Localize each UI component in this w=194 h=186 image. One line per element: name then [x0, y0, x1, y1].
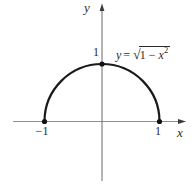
- y-tick-1-label: 1: [89, 46, 99, 59]
- semicircle-function-plot: y x 1 −1 1 y=√1 − x2: [0, 0, 194, 186]
- x-tick-neg1-label: −1: [32, 125, 52, 138]
- y-axis-label: y: [84, 1, 90, 14]
- radicand: 1 − x2: [139, 46, 170, 63]
- radicand-prefix: 1 −: [140, 48, 159, 62]
- plot-canvas: [0, 0, 194, 186]
- x-tick-1-label: 1: [151, 125, 165, 138]
- y-axis-arrowhead: [100, 4, 105, 12]
- equation-variable: y: [116, 48, 121, 62]
- equation-equals: =: [123, 48, 130, 62]
- data-point: [99, 61, 104, 66]
- x-axis-arrowhead: [178, 119, 186, 124]
- x-axis-label: x: [177, 126, 183, 139]
- radicand-exponent: 2: [164, 45, 168, 55]
- curve-equation-label: y=√1 − x2: [116, 46, 170, 63]
